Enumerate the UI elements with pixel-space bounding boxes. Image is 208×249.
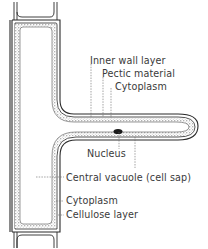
label-nucleus: Nucleus xyxy=(87,148,126,159)
adjacent-cell-top xyxy=(14,2,57,20)
label-inner-wall-layer: Inner wall layer xyxy=(90,55,166,66)
label-central-vacuole: Central vacuole (cell sap) xyxy=(66,172,191,183)
label-cytoplasm-lower: Cytoplasm xyxy=(66,195,118,206)
adjacent-cell-bottom xyxy=(14,232,57,248)
label-pectic-material: Pectic material xyxy=(102,68,175,79)
label-cellulose-layer: Cellulose layer xyxy=(66,209,138,220)
nucleus-shape xyxy=(114,129,123,134)
label-cytoplasm-upper: Cytoplasm xyxy=(115,81,167,92)
